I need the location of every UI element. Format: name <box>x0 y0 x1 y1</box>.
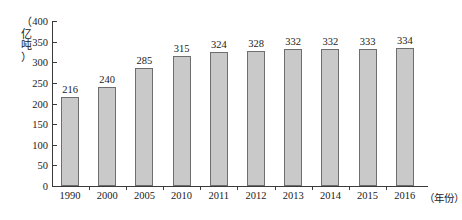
y-axis-tick-label: 150 <box>0 119 48 130</box>
bar-value-label: 328 <box>248 38 264 49</box>
x-axis-tick <box>237 186 238 190</box>
bar-value-label: 216 <box>62 84 78 95</box>
x-axis-tick-label: 2016 <box>394 190 415 201</box>
bar-value-label: 333 <box>360 36 376 47</box>
y-axis-tick <box>52 124 57 125</box>
x-axis-tick-label: 2000 <box>97 190 118 201</box>
x-axis-tick <box>89 186 90 190</box>
x-axis-tick-label: 2012 <box>246 190 267 201</box>
x-axis-tick <box>163 186 164 190</box>
y-axis-tick-label: 100 <box>0 139 48 150</box>
bar <box>61 97 79 186</box>
y-axis-tick <box>52 42 57 43</box>
y-axis-tick-label: 200 <box>0 98 48 109</box>
y-axis-tick <box>52 83 57 84</box>
x-axis-tick <box>312 186 313 190</box>
x-axis-tick-label: 2015 <box>357 190 378 201</box>
y-axis-tick-label: 350 <box>0 36 48 47</box>
y-axis-tick-label: 250 <box>0 77 48 88</box>
y-axis-tick-label: 400 <box>0 16 48 27</box>
y-axis-tick-label: 0 <box>0 181 48 192</box>
bar <box>173 56 191 186</box>
y-axis-tick <box>52 62 57 63</box>
y-axis-tick-label: 300 <box>0 57 48 68</box>
y-axis-tick <box>52 165 57 166</box>
x-axis-tick-label: 2010 <box>171 190 192 201</box>
x-axis-tick-label: 2014 <box>320 190 341 201</box>
bar <box>396 48 414 186</box>
x-axis-tick <box>386 186 387 190</box>
x-axis-tick-label: 1990 <box>60 190 81 201</box>
bar-value-label: 334 <box>397 35 413 46</box>
bar <box>210 52 228 186</box>
x-axis-line <box>52 186 428 187</box>
bar-value-label: 315 <box>174 43 190 54</box>
y-axis-tick <box>52 104 57 105</box>
x-axis-tick <box>200 186 201 190</box>
bar-value-label: 332 <box>285 36 301 47</box>
x-axis-tick-label: 2013 <box>283 190 304 201</box>
x-axis-tick <box>126 186 127 190</box>
bar-value-label: 332 <box>323 36 339 47</box>
bar <box>359 49 377 186</box>
y-axis-tick-label: 50 <box>0 160 48 171</box>
bar-value-label: 324 <box>211 39 227 50</box>
bar-value-label: 285 <box>137 55 153 66</box>
x-axis-tick-label: 2005 <box>134 190 155 201</box>
x-axis-tick <box>275 186 276 190</box>
x-axis-tick <box>349 186 350 190</box>
bar-value-label: 240 <box>99 74 115 85</box>
y-axis-tick <box>52 145 57 146</box>
bar <box>321 49 339 186</box>
bar <box>98 87 116 186</box>
y-axis-tick <box>52 186 57 187</box>
bar <box>135 68 153 186</box>
y-axis-tick <box>52 21 57 22</box>
x-axis-title: （年份） <box>424 190 462 205</box>
bar <box>284 49 302 186</box>
bar <box>247 51 265 186</box>
x-axis-tick-label: 2011 <box>208 190 229 201</box>
